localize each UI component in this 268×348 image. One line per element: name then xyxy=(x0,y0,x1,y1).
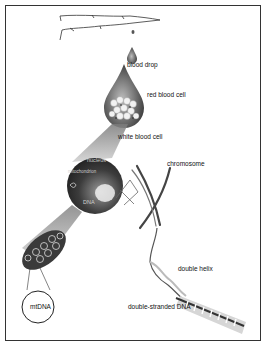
label-chromosome: chromosome xyxy=(167,161,205,168)
label-double-stranded-dna: double-stranded DNA xyxy=(128,304,191,311)
label-nucleus: nucleus xyxy=(87,158,106,164)
label-white-blood-cell: white blood cell xyxy=(118,134,162,141)
label-mitochondrion: mitochondrion xyxy=(68,170,96,175)
finger-icon xyxy=(60,15,160,40)
label-double-helix: double helix xyxy=(178,266,213,273)
nucleus-icon xyxy=(95,184,115,202)
label-red-blood-cell: red blood cell xyxy=(147,92,186,99)
label-blood-drop: blood drop xyxy=(127,62,158,69)
label-mtdna: mtDNA xyxy=(30,304,51,311)
diagram-canvas xyxy=(0,0,268,348)
label-dna: DNA xyxy=(83,200,95,206)
fingertip-drop-icon xyxy=(132,30,135,34)
chromosome-icon xyxy=(132,166,170,228)
dna-helix-icon xyxy=(150,228,246,334)
